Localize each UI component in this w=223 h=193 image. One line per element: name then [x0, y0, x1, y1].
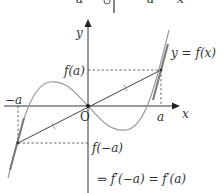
point-a: [160, 69, 163, 72]
top-label-x: x: [177, 0, 184, 6]
top-strip: a a x: [76, 0, 184, 13]
tangent-neg-a: [10, 118, 24, 170]
top-circle-icon: [104, 0, 110, 4]
neg-a-label: −a: [5, 93, 22, 107]
axes: [4, 19, 180, 193]
tangent-a: [153, 44, 168, 100]
a-label: a: [157, 110, 164, 124]
f-a-label: f(a): [63, 64, 85, 78]
odd-function-derivative-diagram: a a x y x O a −a f(a) f(−a) y = f(x) ⇒ f…: [0, 0, 223, 193]
y-axis-arrow-icon: [85, 19, 92, 27]
x-axis-arrow-icon: [172, 103, 180, 110]
y-axis-label: y: [75, 26, 83, 40]
point-neg-a: [17, 142, 20, 145]
origin-point: [86, 104, 90, 108]
origin-label: O: [80, 110, 90, 124]
curve-label: y = f(x): [170, 46, 216, 60]
x-axis-label: x: [182, 107, 189, 121]
f-neg-a-label: f(−a): [91, 141, 123, 155]
top-label-a: a: [76, 0, 83, 6]
conclusion-text: ⇒ f′(−a) = f′(a): [97, 172, 186, 186]
top-label-a2: a: [147, 0, 154, 6]
